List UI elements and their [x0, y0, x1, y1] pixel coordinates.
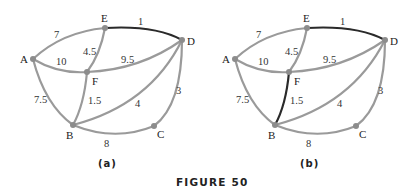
weight-f-b: 1.5	[88, 95, 101, 106]
vertex-label-e: E	[101, 12, 108, 24]
sublabel-a: (a)	[98, 158, 117, 169]
weight-f-d: 9.5	[323, 54, 336, 65]
vertex-label-b: B	[268, 129, 275, 141]
figure-canvas: E D A F B C 7 1 4.5 10 9.5 7.5 1.5 4 3 8…	[0, 0, 413, 191]
weight-a-e: 7	[256, 29, 261, 40]
vertex-d	[179, 37, 185, 43]
edge-b-c	[73, 125, 154, 134]
weight-b-c: 8	[104, 138, 109, 149]
weight-b-d: 4	[337, 98, 343, 109]
vertex-e	[102, 25, 108, 31]
edge-b-c	[275, 125, 356, 134]
graph-a: E D A F B C 7 1 4.5 10 9.5 7.5 1.5 4 3 8…	[20, 12, 195, 169]
vertex-label-a: A	[20, 53, 28, 65]
vertex-label-f: F	[294, 75, 300, 87]
vertex-f	[286, 69, 292, 75]
vertex-label-a: A	[222, 53, 230, 65]
weight-a-b: 7.5	[34, 94, 47, 105]
weight-b-c: 8	[306, 138, 311, 149]
edge-d-c	[154, 40, 182, 126]
vertex-label-e: E	[303, 12, 310, 24]
edge-f-b	[73, 72, 87, 125]
vertex-label-b: B	[66, 129, 73, 141]
vertex-label-c: C	[157, 128, 164, 140]
edge-d-c	[356, 40, 385, 126]
weight-d-c: 3	[378, 85, 383, 96]
weight-f-d: 9.5	[121, 54, 134, 65]
vertex-label-d: D	[390, 35, 398, 47]
weight-b-d: 4	[135, 98, 141, 109]
vertex-label-f: F	[92, 75, 98, 87]
weight-e-f: 4.5	[83, 46, 96, 57]
weight-d-c: 3	[176, 85, 181, 96]
vertex-a	[232, 56, 238, 62]
weight-e-d: 1	[340, 16, 345, 27]
vertex-b	[272, 122, 278, 128]
vertex-e	[304, 25, 310, 31]
edge-e-d	[105, 28, 182, 41]
vertex-f	[84, 69, 90, 75]
edge-f-b	[275, 72, 289, 125]
weight-a-f: 10	[56, 56, 67, 67]
vertex-a	[30, 56, 36, 62]
graph-b: E D A F B C 7 1 4.5 10 9.5 7.5 1.5 4 3 8…	[222, 12, 398, 169]
vertex-label-c: C	[359, 128, 366, 140]
weight-a-f: 10	[258, 56, 269, 67]
figure-caption: FIGURE 50	[176, 176, 249, 188]
sublabel-b: (b)	[300, 158, 319, 169]
weight-e-f: 4.5	[285, 46, 298, 57]
weight-e-d: 1	[138, 16, 143, 27]
weight-f-b: 1.5	[290, 95, 303, 106]
vertex-label-d: D	[187, 35, 195, 47]
weight-a-e: 7	[54, 29, 59, 40]
edge-e-d	[307, 28, 385, 41]
weight-a-b: 7.5	[236, 94, 249, 105]
vertex-b	[70, 122, 76, 128]
vertex-d	[382, 37, 388, 43]
